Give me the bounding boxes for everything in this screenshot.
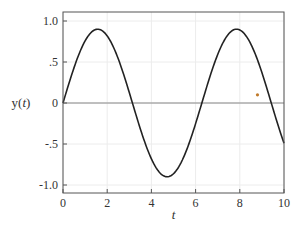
- x-axis-label: t: [172, 207, 176, 222]
- y-tick-label: -1.0: [39, 178, 58, 192]
- y-axis-label: y(t): [12, 95, 31, 110]
- chart: 0246810 1.0.50-.5-1.0 t y(t): [0, 0, 299, 230]
- y-tick-label: .5: [49, 55, 58, 69]
- y-tick-label: 0: [52, 96, 58, 110]
- x-tick-label: 6: [193, 196, 199, 210]
- y-tick-label: -.5: [45, 137, 58, 151]
- x-tick-label: 10: [278, 196, 290, 210]
- x-tick-label: 8: [237, 196, 243, 210]
- annotation-marker: [256, 93, 259, 96]
- x-tick-label: 2: [104, 196, 110, 210]
- y-tick-label: 1.0: [43, 14, 58, 28]
- x-tick-label: 0: [60, 196, 66, 210]
- x-tick-label: 4: [148, 196, 154, 210]
